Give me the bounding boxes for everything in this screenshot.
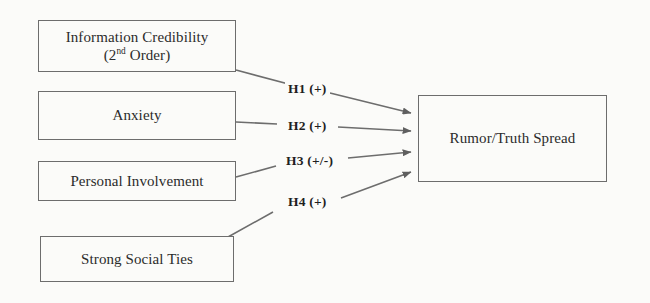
order-suffix: Order) — [126, 47, 170, 63]
node-rumor-truth-spread[interactable]: Rumor/Truth Spread — [418, 95, 607, 182]
node-strong-social-ties-label: Strong Social Ties — [81, 250, 193, 268]
node-information-credibility-line2: (2nd Order) — [66, 46, 209, 64]
edge-label-h4: H4 (+) — [285, 194, 330, 210]
node-personal-involvement-label: Personal Involvement — [70, 172, 203, 190]
edge-label-h3: H3 (+/-) — [283, 153, 336, 169]
node-personal-involvement[interactable]: Personal Involvement — [38, 161, 236, 201]
model-diagram: Information Credibility (2nd Order) Anxi… — [0, 0, 650, 303]
order-prefix: (2 — [104, 47, 117, 63]
order-superscript: nd — [116, 46, 126, 56]
node-information-credibility[interactable]: Information Credibility (2nd Order) — [38, 20, 236, 72]
node-information-credibility-text: Information Credibility (2nd Order) — [66, 28, 209, 65]
edge-label-h1: H1 (+) — [285, 81, 330, 97]
node-rumor-truth-spread-label: Rumor/Truth Spread — [450, 129, 576, 147]
node-anxiety-label: Anxiety — [112, 106, 161, 124]
edge-label-h2: H2 (+) — [285, 118, 330, 134]
node-information-credibility-line1: Information Credibility — [66, 28, 209, 46]
node-anxiety[interactable]: Anxiety — [38, 91, 236, 140]
node-strong-social-ties[interactable]: Strong Social Ties — [40, 236, 234, 282]
